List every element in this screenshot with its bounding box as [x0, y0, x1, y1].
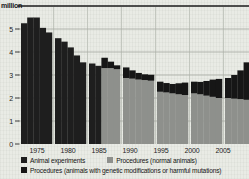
bar-normal-1998 — [176, 94, 182, 144]
bar-normal-1997 — [169, 93, 175, 144]
legend-swatch-procedures-normal — [107, 157, 113, 163]
bar-gm-2005 — [225, 78, 231, 98]
x-tick-label-2000: 2000 — [185, 147, 200, 154]
bar-gm-2002 — [203, 81, 209, 96]
bar-gm-1988 — [108, 62, 114, 68]
bar-normal-2007 — [237, 99, 243, 144]
y-tick-label-2: 2 — [9, 95, 13, 102]
bar-experiments-1979 — [46, 32, 52, 144]
bar-normal-2008 — [244, 100, 249, 144]
bar-gm-1994 — [148, 75, 154, 81]
chart-svg: 5432101975198019851990199520002005 — [0, 0, 249, 156]
bar-gm-1995 — [157, 82, 163, 92]
bar-gm-1991 — [129, 70, 135, 78]
bar-experiments-1981 — [61, 42, 67, 144]
bar-gm-1997 — [169, 84, 175, 93]
bar-gm-2003 — [210, 80, 216, 97]
bar-normal-1988 — [108, 68, 114, 144]
y-tick-label-1: 1 — [9, 118, 13, 125]
bar-experiments-1984 — [80, 62, 86, 144]
bar-gm-2006 — [231, 75, 237, 99]
x-tick-label-1990: 1990 — [123, 147, 138, 154]
legend-label-procedures-normal: Procedures (normal animals) — [116, 157, 197, 164]
bar-gm-1987 — [101, 58, 107, 68]
bar-normal-1996 — [163, 92, 169, 144]
legend-row-2: Procedures (animals with genetic modific… — [0, 165, 249, 175]
bar-normal-2003 — [210, 97, 216, 144]
bar-gm-2004 — [216, 79, 222, 98]
legend: Animal experiments Procedures (normal an… — [0, 155, 249, 175]
x-tick-label-1980: 1980 — [61, 147, 76, 154]
x-tick-label-2005: 2005 — [216, 147, 231, 154]
bar-gm-2000 — [191, 82, 197, 94]
bar-gm-1993 — [142, 74, 148, 80]
x-tick-label-1995: 1995 — [154, 147, 169, 154]
bar-gm-1989 — [114, 65, 120, 69]
animal-experiments-chart: million 54321019751980198519901995200020… — [0, 0, 249, 179]
bar-normal-1987 — [101, 68, 107, 144]
bar-normal-2005 — [225, 98, 231, 144]
bar-normal-1990 — [123, 78, 129, 144]
y-tick-label-5: 5 — [9, 26, 13, 33]
bar-experiments-1978 — [40, 28, 46, 144]
bar-experiments-1983 — [74, 55, 80, 144]
bar-gm-2007 — [237, 70, 243, 99]
y-tick-label-4: 4 — [9, 49, 13, 56]
bar-gm-1996 — [163, 83, 169, 92]
bar-experiments-1986 — [95, 66, 101, 144]
bar-normal-1999 — [182, 95, 188, 144]
bar-gm-1990 — [123, 67, 129, 78]
bar-normal-2002 — [203, 96, 209, 144]
y-tick-label-3: 3 — [9, 72, 13, 79]
bar-normal-2006 — [231, 99, 237, 144]
bar-normal-2000 — [191, 93, 197, 144]
y-tick-label-0: 0 — [9, 141, 13, 148]
bar-gm-2008 — [244, 62, 249, 99]
bar-experiments-1976 — [27, 18, 33, 145]
bar-normal-2004 — [216, 98, 222, 144]
bar-normal-1991 — [129, 79, 135, 144]
bar-gm-2001 — [197, 82, 203, 94]
bar-experiments-1985 — [89, 64, 95, 145]
bar-normal-1993 — [142, 80, 148, 144]
bar-gm-1999 — [182, 83, 188, 95]
legend-swatch-procedures-gm — [21, 167, 27, 173]
legend-swatch-animal-experiments — [21, 157, 27, 163]
bar-normal-1994 — [148, 81, 154, 144]
bar-normal-1992 — [135, 80, 141, 144]
x-tick-label-1985: 1985 — [92, 147, 107, 154]
bar-gm-1998 — [176, 83, 182, 94]
legend-label-procedures-gm: Procedures (animals with genetic modific… — [30, 167, 221, 174]
bar-normal-1989 — [114, 69, 120, 144]
legend-label-animal-experiments: Animal experiments — [30, 157, 85, 164]
bar-normal-1995 — [157, 92, 163, 144]
bar-experiments-1975 — [21, 23, 27, 144]
legend-row-1: Animal experiments Procedures (normal an… — [0, 155, 249, 165]
bar-experiments-1980 — [55, 38, 61, 144]
bar-normal-2001 — [197, 94, 203, 144]
bar-experiments-1982 — [67, 47, 73, 144]
bar-gm-1992 — [135, 73, 141, 80]
x-tick-label-1975: 1975 — [30, 147, 45, 154]
bar-experiments-1977 — [33, 18, 39, 145]
